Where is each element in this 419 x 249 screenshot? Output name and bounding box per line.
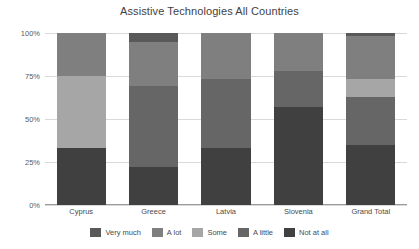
legend-item[interactable]: A lot	[152, 228, 182, 237]
bar-segment[interactable]	[346, 36, 395, 79]
x-axis-tick-label: Greece	[129, 207, 178, 216]
bar-segment[interactable]	[346, 97, 395, 145]
legend-item-label: Not at all	[299, 228, 329, 237]
legend-swatch-icon	[192, 228, 203, 237]
x-axis-tick-label: Cyprus	[57, 207, 106, 216]
legend-item[interactable]: Not at all	[284, 228, 329, 237]
bar-segment[interactable]	[274, 71, 323, 107]
bar-segment[interactable]	[129, 33, 178, 42]
legend-swatch-icon	[90, 228, 101, 237]
chart-container: Assistive Technologies All Countries 100…	[0, 0, 419, 249]
y-axis-tick-label: 50%	[25, 115, 40, 124]
bar-segment[interactable]	[201, 79, 250, 148]
bar-column[interactable]	[57, 33, 106, 205]
x-axis-tick-label: Grand Total	[346, 207, 395, 216]
chart-title: Assistive Technologies All Countries	[0, 5, 419, 17]
legend-swatch-icon	[238, 228, 249, 237]
legend-item-label: A lot	[167, 228, 182, 237]
gridline	[45, 205, 407, 206]
bar-segment[interactable]	[346, 145, 395, 205]
x-axis-tick-label: Slovenia	[274, 207, 323, 216]
legend-item[interactable]: Very much	[90, 228, 140, 237]
bar-segment[interactable]	[274, 107, 323, 205]
bar-segment[interactable]	[201, 33, 250, 79]
legend-item-label: A little	[253, 228, 273, 237]
bar-segment[interactable]	[129, 167, 178, 205]
legend-item-label: Some	[207, 228, 227, 237]
bar-group	[45, 33, 407, 205]
bar-column[interactable]	[346, 33, 395, 205]
bar-column[interactable]	[201, 33, 250, 205]
plot-area: 100%75%50%25%0%	[45, 33, 407, 205]
bar-segment[interactable]	[57, 148, 106, 205]
chart-legend: Very muchA lotSomeA littleNot at all	[0, 228, 419, 237]
legend-swatch-icon	[152, 228, 163, 237]
bar-segment[interactable]	[274, 33, 323, 71]
bar-segment[interactable]	[201, 148, 250, 205]
y-axis-tick-label: 100%	[21, 29, 40, 38]
legend-swatch-icon	[284, 228, 295, 237]
bar-segment[interactable]	[129, 42, 178, 87]
bar-segment[interactable]	[346, 79, 395, 96]
bar-segment[interactable]	[129, 86, 178, 167]
x-axis-tick-label: Latvia	[201, 207, 250, 216]
legend-item-label: Very much	[105, 228, 140, 237]
bar-column[interactable]	[129, 33, 178, 205]
bar-segment[interactable]	[57, 76, 106, 148]
bar-segment[interactable]	[57, 33, 106, 76]
y-axis-tick-label: 75%	[25, 72, 40, 81]
y-axis-tick-label: 25%	[25, 158, 40, 167]
x-axis-labels: CyprusGreeceLatviaSloveniaGrand Total	[45, 207, 407, 216]
legend-item[interactable]: A little	[238, 228, 273, 237]
y-axis-tick-label: 0%	[29, 201, 40, 210]
legend-item[interactable]: Some	[192, 228, 227, 237]
bar-column[interactable]	[274, 33, 323, 205]
